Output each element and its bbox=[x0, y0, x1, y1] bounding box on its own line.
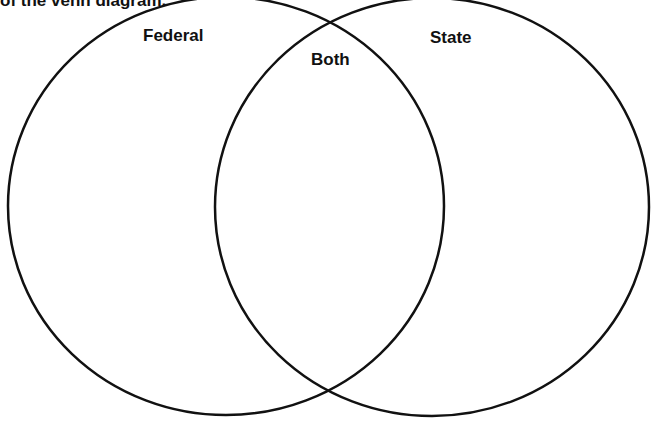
both-label: Both bbox=[311, 50, 350, 70]
state-label: State bbox=[430, 28, 472, 48]
state-circle bbox=[215, 0, 649, 416]
federal-label: Federal bbox=[143, 26, 203, 46]
federal-circle bbox=[8, 0, 444, 415]
